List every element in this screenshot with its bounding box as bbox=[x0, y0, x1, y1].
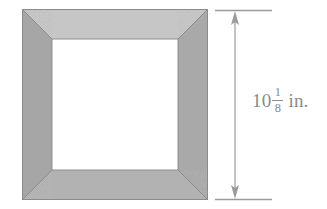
frame-opening bbox=[52, 39, 178, 170]
dimension-fraction: 1 8 bbox=[272, 86, 283, 114]
dimension-label: 10 1 8 in. bbox=[252, 86, 309, 114]
picture-frame-drawing bbox=[22, 9, 208, 200]
fraction-denominator: 8 bbox=[274, 101, 282, 115]
frame-left-rail bbox=[22, 9, 52, 200]
dimension-unit: in. bbox=[288, 91, 308, 110]
frame-top-rail bbox=[22, 9, 208, 39]
frame-bottom-rail bbox=[22, 170, 208, 200]
dimension-whole-number: 10 bbox=[252, 91, 271, 110]
fraction-numerator: 1 bbox=[274, 86, 282, 100]
figure-canvas: 10 1 8 in. bbox=[0, 0, 327, 209]
picture-frame bbox=[22, 9, 208, 200]
frame-right-rail bbox=[178, 9, 208, 200]
